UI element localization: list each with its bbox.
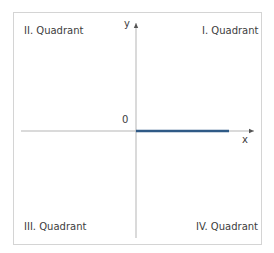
quadrant-3-label: III. Quadrant: [24, 221, 86, 232]
coordinate-system: [0, 0, 274, 253]
origin-label: 0: [122, 114, 128, 125]
quadrant-1-label: I. Quadrant: [202, 25, 259, 36]
quadrant-4-label: IV. Quadrant: [196, 221, 258, 232]
y-axis-label: y: [124, 18, 130, 29]
x-axis-label: x: [242, 134, 248, 145]
quadrant-2-label: II. Quadrant: [24, 25, 83, 36]
